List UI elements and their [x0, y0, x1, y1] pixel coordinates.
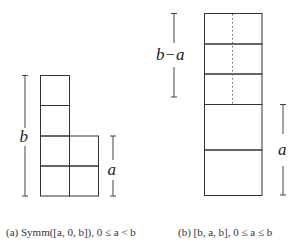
- label-b: b: [20, 127, 29, 146]
- grid-cell: [41, 76, 70, 106]
- grid-cell: [41, 106, 70, 137]
- label-b-minus-a: b−a: [156, 45, 184, 64]
- dimension-a-marker: a: [278, 105, 287, 196]
- label-a: a: [108, 160, 117, 179]
- grid-cell: [205, 44, 263, 74]
- grid-cell: [205, 150, 263, 196]
- dimension-b-marker: b: [20, 76, 29, 197]
- grid-cell: [205, 14, 263, 45]
- grid-cell: [70, 136, 99, 166]
- grid-cell: [70, 166, 99, 196]
- caption-a: (a) Symm([a, 0, b]), 0 ≤ a < b: [6, 226, 136, 238]
- grid-cell: [41, 136, 70, 166]
- figure-a: b a: [20, 76, 117, 197]
- grid-cell: [205, 74, 263, 105]
- grid-cell: [41, 166, 70, 196]
- figure-b: b−a a: [156, 14, 287, 196]
- label-a: a: [278, 140, 287, 159]
- caption-b: (b) [b, a, b], 0 ≤ a ≤ b: [178, 226, 272, 238]
- dimension-b-minus-a-marker: b−a: [156, 14, 184, 98]
- diagram-canvas: b a b−a: [0, 0, 305, 242]
- dimension-a-marker: a: [108, 136, 117, 196]
- grid-cell: [205, 105, 263, 151]
